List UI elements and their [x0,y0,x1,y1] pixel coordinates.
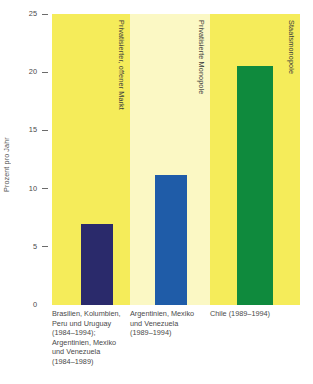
y-tick: 10 [18,184,52,194]
y-tick-mark [42,246,48,247]
y-tick-label: 15 [18,125,37,135]
y-tick-label: 5 [18,242,37,252]
x-axis-labels: Brasilien, Kolumbien, Peru und Uruguay (… [52,309,310,384]
y-tick-mark [42,130,48,131]
plot-area: Privatisierter, offener MarktPrivatisier… [52,14,300,305]
x-axis-label-3: Chile (1989–1994) [210,309,305,319]
y-tick: 15 [18,125,52,135]
panel-annotation: Privatisierte Monopole [196,20,206,94]
y-tick-mark [42,72,48,73]
chart-panel-1: Privatisierter, offener Markt [52,14,130,305]
y-tick: 25 [18,9,52,19]
bar-2 [155,175,187,305]
y-tick-mark [42,188,48,189]
y-tick: 20 [18,67,52,77]
bar-1 [81,224,113,305]
y-axis-title: Prozent pro Jahr [0,120,14,210]
chart-panel-3: Staatsmonopole [210,14,300,305]
y-tick-label: 10 [18,184,37,194]
y-tick-label: 0 [18,300,37,310]
y-axis-ticks: 2520151050 [18,0,52,384]
chart-panel-2: Privatisierte Monopole [130,14,210,305]
panel-annotation: Privatisierter, offener Markt [116,20,126,110]
y-tick: 5 [18,242,52,252]
x-axis-label-2: Argentinien, Mexiko und Venezuela (1989–… [130,309,208,338]
bar-3 [237,66,273,305]
y-tick-mark [42,14,48,15]
bar-chart: Prozent pro Jahr 2520151050 Privatisiert… [0,0,313,384]
y-tick: 0 [18,300,52,310]
y-tick-label: 25 [18,9,37,19]
panel-annotation: Staatsmonopole [286,20,296,74]
x-axis-label-1: Brasilien, Kolumbien, Peru und Uruguay (… [52,309,128,367]
y-tick-label: 20 [18,67,37,77]
